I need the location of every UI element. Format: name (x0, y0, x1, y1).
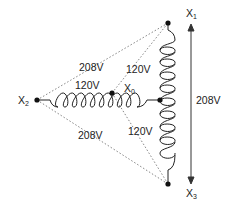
voltage-x2-x1: 208V (79, 61, 104, 73)
x1-x3-double-arrow-icon (188, 24, 194, 184)
x1-label: X1 (186, 7, 197, 20)
x2-label: X2 (18, 94, 29, 107)
x3-terminal-dot (165, 181, 170, 186)
x3-label: X3 (186, 187, 197, 200)
x0-neutral-dot (109, 90, 114, 95)
x2-terminal-dot (34, 97, 39, 102)
voltage-x2-x0: 120V (75, 79, 100, 91)
voltage-x1-x3: 208V (196, 94, 221, 106)
x1-terminal-dot (165, 20, 170, 25)
dotted-voltage-lines (37, 23, 168, 184)
wye-voltage-diagram: X1 X3 X2 X0 208V 208V 208V 120V 120V 120… (0, 0, 233, 216)
x0-label: X0 (124, 82, 135, 95)
vertical-winding (160, 23, 175, 184)
voltage-x0-x3: 120V (128, 125, 153, 137)
voltage-x2-x3: 208V (78, 129, 103, 141)
horizontal-winding (37, 93, 160, 107)
junction-dot (157, 97, 162, 102)
voltage-x0-x1: 120V (126, 63, 151, 75)
